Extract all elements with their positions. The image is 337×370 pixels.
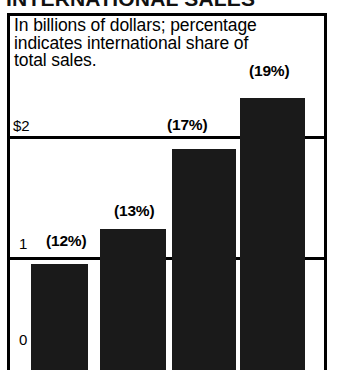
chart-caption: In billions of dollars; percentage indic… xyxy=(14,17,276,70)
caption-line-3: total sales. xyxy=(14,52,276,70)
caption-line-1: In billions of dollars; percentage xyxy=(14,17,276,35)
y-axis-tick-0: 0 xyxy=(19,332,27,347)
y-axis-tick-1: 1 xyxy=(19,236,27,251)
bar-1 xyxy=(31,264,88,370)
bar-label-1: (12%) xyxy=(46,233,86,249)
bar-4 xyxy=(240,98,305,370)
bar-2 xyxy=(100,229,166,370)
bar-chart-figure: INTERNATIONAL SALES In billions of dolla… xyxy=(0,0,337,370)
bar-label-4: (19%) xyxy=(249,63,289,79)
y-axis-tick-2: $2 xyxy=(13,118,30,133)
bar-label-2: (13%) xyxy=(114,203,154,219)
bar-3 xyxy=(172,149,236,370)
bar-label-3: (17%) xyxy=(167,117,207,133)
page-title: INTERNATIONAL SALES xyxy=(6,0,337,11)
